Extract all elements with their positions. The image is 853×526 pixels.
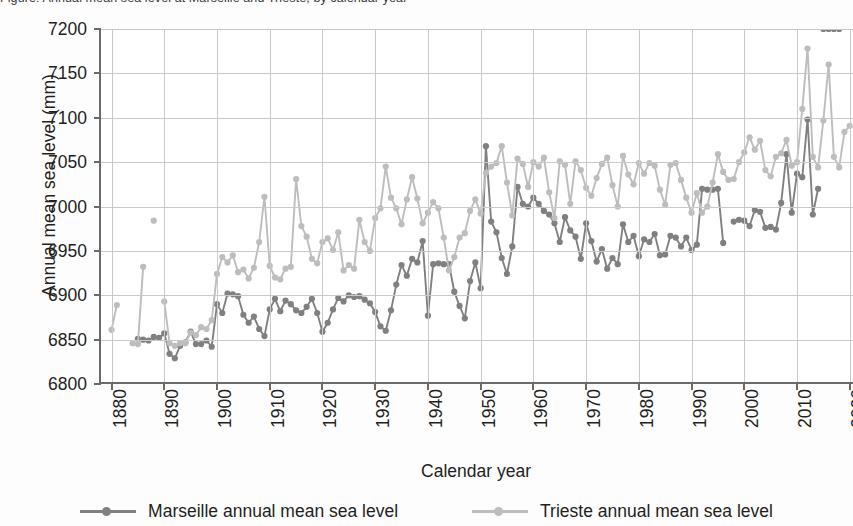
data-point-marker bbox=[826, 61, 832, 67]
data-point-marker bbox=[757, 209, 763, 215]
data-point-marker bbox=[309, 256, 315, 262]
chart-legend: Marseille annual mean sea levelTrieste a… bbox=[0, 496, 853, 526]
data-point-marker bbox=[783, 137, 789, 143]
data-point-marker bbox=[778, 150, 784, 156]
data-point-marker bbox=[620, 153, 626, 159]
data-point-marker bbox=[536, 163, 542, 169]
data-point-marker bbox=[451, 289, 457, 295]
y-tick-mark bbox=[94, 339, 101, 341]
data-point-marker bbox=[383, 328, 389, 334]
data-point-marker bbox=[699, 210, 705, 216]
data-point-marker bbox=[277, 276, 283, 282]
data-point-marker bbox=[409, 256, 415, 262]
data-point-marker bbox=[715, 186, 721, 192]
data-point-marker bbox=[768, 173, 774, 179]
x-axis-tick-labels: 1880189019001910192019301940195019601970… bbox=[99, 384, 853, 460]
legend-item-trieste[interactable]: Trieste annual mean sea level bbox=[472, 501, 773, 522]
x-tick-label: 1900 bbox=[215, 398, 236, 437]
data-point-marker bbox=[541, 155, 547, 161]
data-point-marker bbox=[678, 177, 684, 183]
x-tick-label: 1960 bbox=[531, 398, 552, 437]
data-point-marker bbox=[467, 278, 473, 284]
data-point-marker bbox=[609, 255, 615, 261]
data-point-marker bbox=[757, 138, 763, 144]
legend-item-marseille[interactable]: Marseille annual mean sea level bbox=[80, 501, 398, 522]
y-tick-label: 7000 bbox=[48, 196, 87, 217]
data-point-marker bbox=[462, 315, 468, 321]
gridline-vertical bbox=[428, 29, 429, 382]
data-point-marker bbox=[625, 171, 631, 177]
data-point-marker bbox=[752, 207, 758, 213]
data-point-marker bbox=[246, 320, 252, 326]
y-axis-tick-labels: 680068506900695070007050710071507200 bbox=[0, 0, 95, 526]
y-tick-mark bbox=[94, 161, 101, 163]
x-tick-label: 1890 bbox=[162, 398, 183, 437]
data-point-marker bbox=[430, 199, 436, 205]
data-point-marker bbox=[551, 215, 557, 221]
data-point-marker bbox=[472, 259, 478, 265]
data-point-marker bbox=[314, 260, 320, 266]
data-point-marker bbox=[209, 344, 215, 350]
x-tick-label: 2010 bbox=[795, 398, 816, 437]
data-point-marker bbox=[314, 310, 320, 316]
data-point-marker bbox=[578, 256, 584, 262]
data-point-marker bbox=[699, 186, 705, 192]
title-divider bbox=[0, 7, 853, 8]
data-point-marker bbox=[240, 312, 246, 318]
data-point-marker bbox=[330, 306, 336, 312]
data-point-marker bbox=[546, 189, 552, 195]
data-point-marker bbox=[230, 252, 236, 258]
data-point-marker bbox=[409, 174, 415, 180]
data-point-marker bbox=[219, 310, 225, 316]
data-point-marker bbox=[251, 265, 257, 271]
data-point-marker bbox=[562, 214, 568, 220]
data-point-marker bbox=[594, 258, 600, 264]
data-point-marker bbox=[462, 230, 468, 236]
data-point-marker bbox=[388, 307, 394, 313]
data-point-marker bbox=[304, 304, 310, 310]
data-point-marker bbox=[836, 164, 842, 170]
data-point-marker bbox=[493, 229, 499, 235]
data-point-marker bbox=[604, 155, 610, 161]
data-point-marker bbox=[288, 264, 294, 270]
gridline-vertical bbox=[270, 29, 271, 382]
data-point-marker bbox=[140, 264, 146, 270]
data-point-marker bbox=[720, 240, 726, 246]
data-point-marker bbox=[746, 134, 752, 140]
data-point-marker bbox=[151, 218, 157, 224]
data-point-marker bbox=[135, 341, 141, 347]
data-point-marker bbox=[731, 176, 737, 182]
data-point-marker bbox=[261, 333, 267, 339]
data-point-marker bbox=[240, 266, 246, 272]
data-point-marker bbox=[304, 234, 310, 240]
data-point-marker bbox=[435, 260, 441, 266]
data-point-marker bbox=[388, 195, 394, 201]
data-point-marker bbox=[499, 143, 505, 149]
data-point-marker bbox=[694, 190, 700, 196]
gridline-vertical bbox=[481, 29, 482, 382]
data-point-marker bbox=[551, 220, 557, 226]
data-point-marker bbox=[652, 163, 658, 169]
data-point-marker bbox=[657, 187, 663, 193]
data-point-marker bbox=[810, 211, 816, 217]
plot-area bbox=[99, 29, 853, 384]
x-tick-label: 1950 bbox=[479, 398, 500, 437]
data-point-marker bbox=[256, 239, 262, 245]
plot-canvas bbox=[101, 29, 853, 382]
data-point-marker bbox=[557, 239, 563, 245]
data-point-marker bbox=[673, 234, 679, 240]
data-point-marker bbox=[272, 296, 278, 302]
data-point-marker bbox=[277, 308, 283, 314]
legend-swatch bbox=[80, 505, 136, 517]
x-axis-title: Calendar year bbox=[99, 461, 853, 482]
data-point-marker bbox=[446, 267, 452, 273]
data-point-marker bbox=[198, 324, 204, 330]
data-point-marker bbox=[504, 179, 510, 185]
data-point-marker bbox=[541, 208, 547, 214]
data-point-marker bbox=[177, 340, 183, 346]
data-point-marker bbox=[235, 269, 241, 275]
data-point-marker bbox=[762, 167, 768, 173]
y-tick-label: 7100 bbox=[48, 107, 87, 128]
gridline-horizontal bbox=[101, 207, 853, 208]
gridline-vertical bbox=[692, 29, 693, 382]
